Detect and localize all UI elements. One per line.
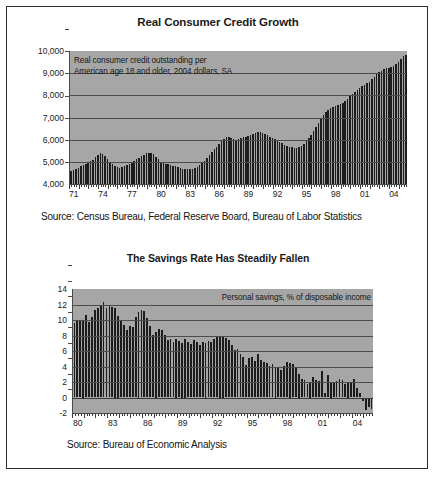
bar: [337, 105, 339, 184]
bar: [119, 168, 121, 184]
bar: [366, 83, 368, 184]
x-axis-tick: [365, 185, 366, 187]
x-axis-tick: [290, 185, 291, 187]
bar: [325, 112, 327, 184]
bar: [85, 164, 87, 184]
x-axis-tick-label: 83: [108, 419, 117, 428]
x-axis-tick: [374, 185, 375, 187]
y-axis-tick: [68, 343, 72, 344]
x-axis-tick-label: 04: [389, 190, 398, 199]
bar: [170, 339, 172, 398]
bar: [364, 85, 366, 184]
x-axis-tick: [399, 185, 400, 189]
bar: [250, 135, 252, 184]
bar: [376, 74, 378, 184]
bar: [76, 321, 78, 398]
x-axis-tick: [122, 185, 123, 187]
bar: [148, 153, 150, 184]
x-axis-tick: [149, 185, 150, 187]
bar: [70, 171, 72, 184]
bar: [307, 384, 309, 397]
bar: [193, 340, 195, 397]
x-axis-tick: [270, 185, 271, 187]
bar: [138, 312, 140, 397]
x-axis-tick: [276, 414, 277, 416]
bar: [88, 322, 90, 398]
bar: [194, 168, 196, 184]
y-axis-tick-label: 8,000: [43, 91, 64, 100]
x-axis-tick: [190, 185, 191, 187]
x-axis-tick-label: 71: [69, 190, 78, 199]
x-axis-tick: [391, 185, 392, 187]
bar: [102, 154, 104, 184]
x-axis-tick: [88, 185, 89, 189]
x-axis-tick: [127, 414, 128, 416]
x-axis-tick: [394, 185, 395, 187]
x-axis-tick: [406, 185, 407, 187]
x-axis-tick: [84, 414, 85, 418]
x-axis-tick: [209, 414, 210, 416]
x-axis-tick: [105, 185, 106, 187]
bar: [330, 108, 332, 184]
x-axis-tick-label: 92: [273, 190, 282, 199]
bar: [121, 167, 123, 184]
x-axis-tick: [341, 185, 342, 189]
x-axis-tick: [136, 414, 137, 416]
x-axis-tick: [279, 414, 280, 416]
bar: [199, 165, 201, 184]
bar: [160, 162, 162, 184]
x-axis-tick: [336, 185, 337, 187]
x-axis-tick-label: 83: [185, 190, 194, 199]
x-axis-tick: [261, 185, 262, 187]
bar: [131, 162, 133, 184]
x-axis-tick-label: 74: [98, 190, 107, 199]
bar: [289, 147, 291, 184]
bar: [309, 382, 311, 398]
x-axis-tick: [104, 414, 105, 416]
bar: [403, 56, 405, 184]
x-axis-tick: [282, 185, 283, 189]
x-axis-tick: [194, 414, 195, 416]
x-axis-tick: [343, 414, 344, 416]
x-axis-tick-label: 77: [127, 190, 136, 199]
y-axis-tick-label: 4,000: [43, 180, 64, 189]
chart-1-y-axis-labels: 4,0005,0006,0007,0008,0009,00010,000: [7, 51, 64, 184]
x-axis-tick: [78, 414, 79, 416]
x-axis-tick: [226, 414, 227, 416]
bar: [251, 357, 253, 397]
y-axis-tick: [65, 162, 69, 163]
x-axis-tick: [261, 414, 262, 416]
x-axis-tick: [367, 185, 368, 187]
x-axis-tick: [79, 185, 80, 189]
bar: [298, 374, 300, 397]
y-axis-tick: [68, 327, 72, 328]
chart-savings-rate-has-steadily-fallen: The Savings Rate Has Steadily Fallen -20…: [7, 251, 429, 463]
x-axis-tick: [348, 185, 349, 187]
x-axis-tick: [316, 185, 317, 187]
bar: [141, 156, 143, 184]
x-axis-tick: [108, 185, 109, 189]
x-axis-tick: [360, 414, 361, 416]
bar: [117, 167, 119, 184]
x-axis-tick: [75, 414, 76, 416]
x-axis-tick: [239, 185, 240, 187]
x-axis-tick: [355, 414, 356, 416]
x-axis-tick: [130, 414, 131, 418]
x-axis-tick: [76, 185, 77, 187]
x-axis-tick: [174, 414, 175, 416]
bar: [284, 145, 286, 184]
chart-2-x-axis-labels: 808386899295980104: [72, 419, 372, 431]
zero-line: [73, 398, 373, 399]
bar: [90, 161, 92, 184]
bar: [208, 341, 210, 398]
bar: [231, 345, 233, 398]
x-axis-tick-label: 95: [248, 419, 257, 428]
y-axis-tick: [65, 51, 69, 52]
bar: [214, 149, 216, 184]
bar: [150, 153, 152, 184]
bar: [356, 388, 358, 397]
chart-1-x-ticks: [69, 185, 406, 189]
bar: [192, 169, 194, 184]
x-axis-tick: [205, 185, 206, 189]
x-axis-tick: [337, 414, 338, 416]
